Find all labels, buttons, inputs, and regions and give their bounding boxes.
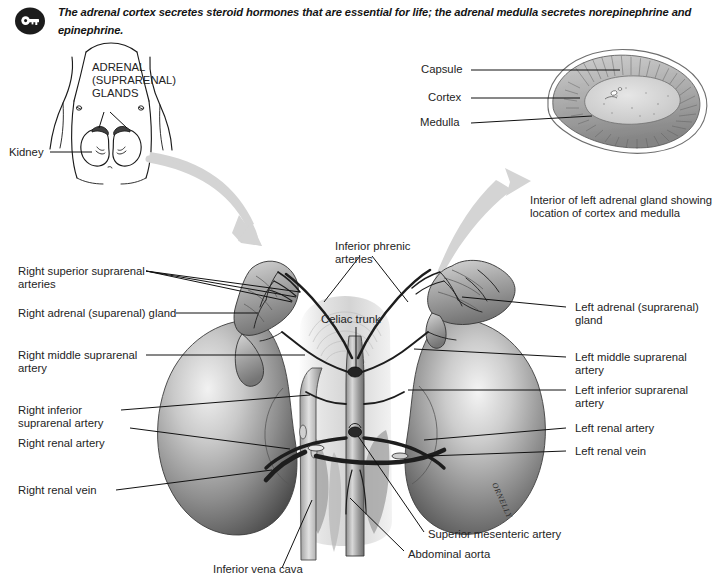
label-inferior-phrenic-arteries-1: Inferior phrenic [335,240,410,254]
label-right-renal-vein: Right renal vein [18,484,97,498]
adrenal-gland-cross-section [471,49,707,153]
label-right-renal-artery: Right renal artery [18,437,105,451]
label-inferior-vena-cava: Inferior vena cava [213,563,303,577]
label-right-superior-suprarenal-arteries-1: Right superior suprarenal [18,265,145,279]
label-left-inferior-suprarenal-artery-2: artery [575,397,604,411]
label-right-middle-suprarenal-artery-2: artery [18,362,47,376]
torso-kidney-label: Kidney [9,146,44,160]
label-right-inferior-suprarenal-artery-1: Right inferior [18,404,82,418]
label-left-inferior-suprarenal-artery-1: Left inferior suprarenal [575,384,688,398]
label-superior-mesenteric-artery: Superior mesenteric artery [428,528,561,542]
label-left-middle-suprarenal-artery-2: artery [575,364,604,378]
torso-title-line-2: (SUPRARENAL) [92,74,176,87]
label-left-renal-artery: Left renal artery [575,422,654,436]
kidneys-adrenals-illustration [158,260,546,560]
label-left-renal-vein: Left renal vein [575,445,646,459]
torso-title-line-3: GLANDS [92,87,138,100]
label-inferior-phrenic-arteries-2: arteries [335,253,373,267]
label-celiac-trunk: Celiac trunk [321,313,381,327]
inset-label-medulla: Medulla [420,116,460,130]
label-left-adrenal-gland-2: gland [575,314,603,328]
label-left-adrenal-gland-1: Left adrenal (suprarenal) [575,301,699,315]
label-abdominal-aorta: Abdominal aorta [408,548,490,562]
arrow-torso-to-main [149,152,262,246]
torso-title-line-1: ADRENAL [92,61,145,74]
label-right-superior-suprarenal-arteries-2: arteries [18,278,56,292]
inset-caption-line-1: Interior of left adrenal gland showing [530,194,712,208]
label-right-inferior-suprarenal-artery-2: suprarenal artery [18,417,103,431]
inset-caption-line-2: location of cortex and medulla [530,207,680,221]
inset-label-cortex: Cortex [428,91,461,105]
label-right-middle-suprarenal-artery-1: Right middle suprarenal [18,349,137,363]
label-right-adrenal-gland: Right adrenal (suparenal) gland [18,307,176,321]
label-left-middle-suprarenal-artery-1: Left middle suprarenal [575,351,687,365]
inset-label-capsule: Capsule [421,63,462,77]
figure-page: The adrenal cortex secretes steroid horm… [0,0,714,587]
